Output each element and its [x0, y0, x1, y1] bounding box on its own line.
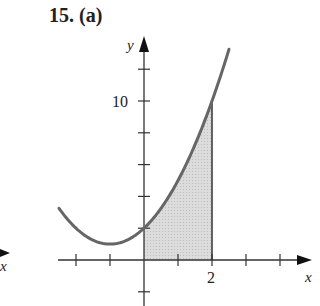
x-axis-label: x [304, 269, 312, 285]
fragment-arrow-icon [0, 249, 10, 257]
x-axis-arrow-icon [297, 255, 312, 265]
fragment-x-label: x [0, 258, 7, 274]
y-axis-label: y [125, 37, 134, 53]
y-axis-arrow-icon [139, 36, 149, 52]
tick-label-2: 2 [207, 269, 215, 286]
chart-plot: y x 10 2 x [0, 0, 320, 306]
tick-label-10: 10 [112, 93, 128, 110]
